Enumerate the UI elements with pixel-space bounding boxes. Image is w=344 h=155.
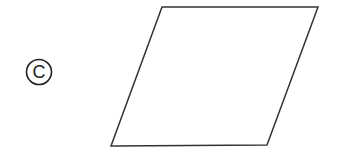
option-label-text: C: [25, 58, 53, 86]
option-label-c: C: [25, 58, 53, 86]
parallelogram-shape: [111, 7, 318, 146]
